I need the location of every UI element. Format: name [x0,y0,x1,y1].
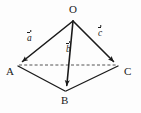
vector-letter-b: b [66,45,71,55]
vertex-label-a: A [6,66,14,77]
diagram-canvas [0,0,141,113]
vertex-label-c: C [124,66,131,77]
vector-label-a: a [27,30,32,43]
over-arrow-icon [98,25,102,29]
vector-label-b: b [66,41,71,54]
vector-letter-c: c [98,29,102,39]
vector-label-c: c [98,25,102,38]
vector-letter-a: a [27,34,32,44]
vector-c-arrow [73,21,114,62]
edge-bc [66,66,118,91]
over-arrow-icon [27,30,32,34]
edge-ab [18,66,65,91]
over-arrow-icon [66,41,71,45]
tetrahedron-vector-figure: O A B C a b c [0,0,141,113]
vertex-label-o: O [69,4,77,15]
vertex-label-b: B [61,95,68,106]
